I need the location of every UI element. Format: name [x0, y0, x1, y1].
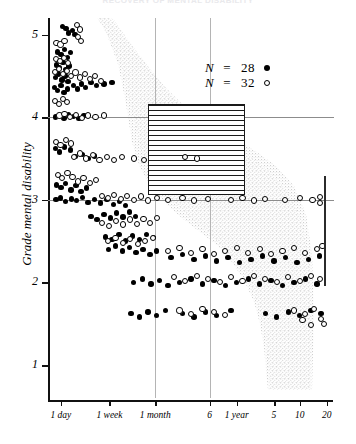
- figure-title: RECOVERY OF MENTAL DISABILITY: [0, 0, 356, 3]
- data-point-open: [245, 250, 251, 256]
- data-point-open: [308, 273, 314, 279]
- x-tick-label: 6: [207, 410, 212, 420]
- legend-item-filled: N = 28: [205, 60, 270, 75]
- data-point-filled: [280, 283, 285, 288]
- data-point-open: [135, 241, 141, 247]
- y-tick-label: 3: [22, 192, 38, 207]
- data-point-open: [228, 197, 234, 203]
- data-point-filled: [271, 258, 276, 263]
- x-tick: [300, 400, 302, 406]
- data-point-filled: [68, 50, 73, 55]
- data-point-open: [188, 250, 194, 256]
- data-point-filled: [114, 210, 119, 215]
- data-point-filled: [63, 199, 68, 204]
- data-point-filled: [101, 212, 106, 217]
- data-point-open: [131, 197, 137, 203]
- x-tick: [210, 400, 212, 406]
- data-point-filled: [291, 280, 296, 285]
- data-point-filled: [128, 311, 133, 316]
- data-point-open: [92, 73, 98, 79]
- data-point-filled: [65, 79, 70, 84]
- data-point-filled: [133, 250, 138, 255]
- data-point-filled: [163, 308, 168, 313]
- data-point-open: [297, 278, 303, 284]
- data-point-open: [234, 245, 240, 251]
- data-point-open: [279, 248, 285, 254]
- data-point-filled: [133, 214, 138, 219]
- x-tick: [109, 400, 111, 406]
- data-point-open: [104, 154, 110, 160]
- data-point-filled: [65, 86, 70, 91]
- x-tick-label: 10: [295, 410, 305, 420]
- data-point-filled: [283, 255, 288, 260]
- data-point-filled: [109, 80, 114, 85]
- data-point-filled: [225, 255, 230, 260]
- x-tick: [327, 400, 329, 406]
- data-point-filled: [78, 189, 83, 194]
- data-point-open: [251, 197, 257, 203]
- x-tick-label: 1 week: [96, 410, 122, 420]
- data-point-filled: [203, 253, 208, 258]
- data-point-filled: [137, 314, 142, 319]
- data-point-open: [142, 238, 148, 244]
- data-point-open: [111, 192, 117, 198]
- y-tick-label: 4: [22, 109, 38, 124]
- x-tick: [237, 400, 239, 406]
- x-tick-label: 20: [322, 410, 332, 420]
- data-point-open: [119, 154, 125, 160]
- gridline-vertical: [155, 18, 156, 398]
- data-point-open: [83, 155, 89, 161]
- data-point-filled: [214, 258, 219, 263]
- data-point-open: [57, 142, 63, 148]
- data-point-open: [171, 274, 177, 280]
- legend-value: 28: [235, 60, 261, 76]
- x-axis-line: [48, 400, 333, 402]
- x-tick-label: 1 year: [225, 410, 249, 420]
- data-point-open: [93, 177, 99, 183]
- data-point-open: [199, 306, 205, 312]
- open-circle-icon: [264, 80, 270, 86]
- data-point-open: [308, 322, 314, 328]
- data-point-open: [111, 157, 117, 163]
- data-point-open: [99, 220, 105, 226]
- legend-n-symbol: N: [205, 60, 219, 76]
- data-point-open: [165, 197, 171, 203]
- data-point-filled: [74, 198, 79, 203]
- data-point-filled: [140, 276, 145, 281]
- data-point-filled: [98, 200, 103, 205]
- data-point-open: [101, 112, 107, 118]
- data-point-open: [165, 248, 171, 254]
- stippled-envelope: [48, 18, 334, 398]
- data-point-filled: [274, 314, 279, 319]
- data-point-filled: [111, 202, 116, 207]
- data-point-open: [124, 193, 130, 199]
- data-point-filled: [80, 195, 85, 200]
- data-point-open: [228, 274, 234, 280]
- data-point-open: [321, 321, 327, 327]
- data-point-filled: [145, 309, 150, 314]
- data-point-filled: [317, 253, 322, 258]
- data-point-open: [87, 180, 93, 186]
- data-point-filled: [168, 255, 173, 260]
- data-point-open: [299, 317, 305, 323]
- data-point-filled: [148, 281, 153, 286]
- data-point-filled: [237, 260, 242, 265]
- data-point-filled: [106, 247, 111, 252]
- data-point-open: [317, 200, 323, 206]
- data-point-open: [317, 276, 323, 282]
- data-point-filled: [180, 252, 185, 257]
- data-point-open: [257, 246, 263, 252]
- data-point-filled: [75, 86, 80, 91]
- data-point-open: [106, 223, 112, 229]
- y-tick-label: 2: [22, 274, 38, 289]
- x-tick: [61, 400, 63, 406]
- data-point-filled: [191, 257, 196, 262]
- data-point-filled: [200, 281, 205, 286]
- data-point-open: [274, 279, 280, 285]
- data-point-open: [291, 245, 297, 251]
- data-point-open: [65, 60, 71, 66]
- figure-root: RECOVERY OF MENTAL DISABILITY Grade ment…: [0, 0, 356, 444]
- data-point-filled: [306, 257, 311, 262]
- data-point-filled: [154, 313, 159, 318]
- data-point-filled: [127, 245, 132, 250]
